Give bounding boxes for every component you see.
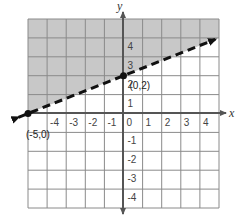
x-tick-label: -1 <box>107 117 116 128</box>
x-tick-label: 3 <box>184 117 190 128</box>
y-tick-label: -2 <box>128 154 137 165</box>
y-axis-label: y <box>116 0 123 13</box>
point-label: (-5,0) <box>26 129 50 140</box>
x-tick-label: -2 <box>88 117 97 128</box>
x-axis-label: x <box>228 106 235 120</box>
x-tick-label: 1 <box>146 117 152 128</box>
y-tick-label: 3 <box>128 60 134 71</box>
y-tick-label: -3 <box>128 173 137 184</box>
point-marker <box>25 110 32 117</box>
y-tick-label: -4 <box>128 192 137 203</box>
x-tick-label: 4 <box>203 117 209 128</box>
x-tick-label: -3 <box>69 117 78 128</box>
y-tick-label: 1 <box>128 98 134 109</box>
x-tick-label: 2 <box>165 117 171 128</box>
x-tick-label: 0 <box>127 117 133 128</box>
point-label: (0,2) <box>130 80 151 91</box>
coordinate-plane: x y -4-3-2-1012344321-1-2-3-4 (0,2)(-5,0… <box>0 0 239 223</box>
x-tick-label: -4 <box>50 117 59 128</box>
point-marker <box>120 72 127 79</box>
y-tick-label: -1 <box>128 135 137 146</box>
y-tick-label: 4 <box>128 41 134 52</box>
